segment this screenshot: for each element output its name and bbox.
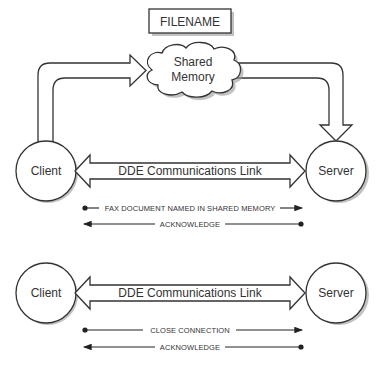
bottom-section: Client Server DDE Communications Link CL… xyxy=(16,263,369,352)
dde-diagram: FILENAME Shared Memory Client Server DD xyxy=(0,0,385,373)
shared-memory-cloud: Shared Memory xyxy=(147,42,243,100)
server-node-top: Server xyxy=(306,141,369,203)
message-acknowledge-bottom: ACKNOWLEDGE xyxy=(84,343,304,352)
memory-to-server-arrow xyxy=(235,63,352,141)
dde-link-arrow-top: DDE Communications Link xyxy=(75,155,305,187)
server-node-bottom: Server xyxy=(306,263,369,325)
message-label: FAX DOCUMENT NAMED IN SHARED MEMORY xyxy=(105,204,276,213)
message-acknowledge-top: ACKNOWLEDGE xyxy=(84,220,304,229)
server-label: Server xyxy=(318,286,353,300)
client-label: Client xyxy=(31,164,62,178)
client-node-top: Client xyxy=(16,141,78,203)
filename-label: FILENAME xyxy=(160,15,220,29)
client-node-bottom: Client xyxy=(16,263,78,325)
message-label: ACKNOWLEDGE xyxy=(160,343,220,352)
client-to-memory-arrow xyxy=(38,55,146,142)
message-label: CLOSE CONNECTION xyxy=(150,326,230,335)
client-label: Client xyxy=(31,286,62,300)
message-close-connection: CLOSE CONNECTION xyxy=(82,326,302,335)
dde-link-label: DDE Communications Link xyxy=(118,286,262,300)
top-section: Client Server DDE Communications Link FA… xyxy=(16,141,369,229)
shared-memory-label-line2: Memory xyxy=(171,70,214,84)
dde-link-arrow-bottom: DDE Communications Link xyxy=(75,277,305,309)
message-label: ACKNOWLEDGE xyxy=(160,220,220,229)
shared-memory-label-line1: Shared xyxy=(174,55,213,69)
dde-link-label: DDE Communications Link xyxy=(118,164,262,178)
server-label: Server xyxy=(318,164,353,178)
message-fax-document: FAX DOCUMENT NAMED IN SHARED MEMORY xyxy=(82,204,302,213)
filename-box: FILENAME xyxy=(149,9,234,36)
